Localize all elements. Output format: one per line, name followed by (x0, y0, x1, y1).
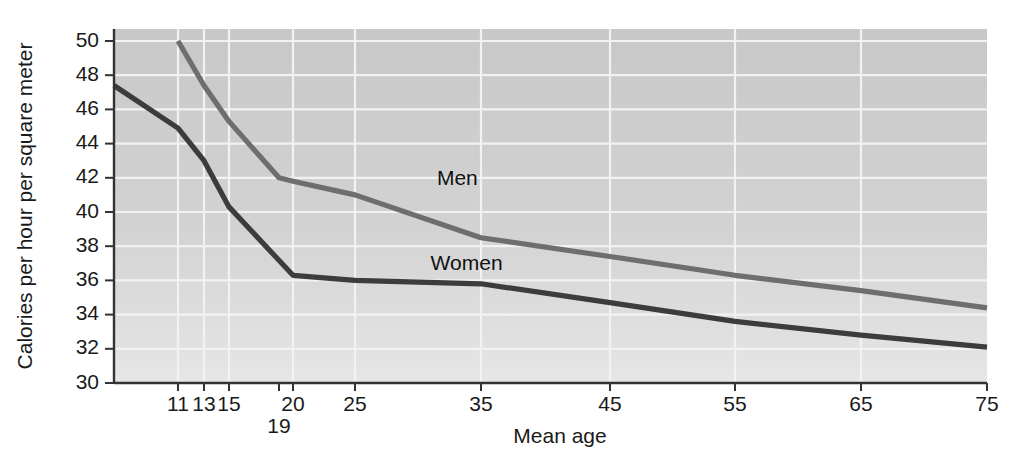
x-tick-label: 55 (723, 392, 746, 415)
series-annotation-women: Women (431, 251, 503, 274)
y-tick-label: 46 (76, 96, 99, 119)
chart-svg: 1113151920253545556575 30323436384042444… (0, 0, 1036, 465)
plot-area-background (114, 29, 987, 383)
x-tick-label: 20 (281, 392, 304, 415)
x-tick-label: 13 (192, 392, 215, 415)
y-tick-label: 42 (76, 164, 99, 187)
y-tick-label: 38 (76, 233, 99, 256)
y-tick-label: 40 (76, 199, 99, 222)
x-tick-label: 19 (267, 414, 290, 437)
x-tick-label: 15 (217, 392, 240, 415)
series-annotation-men: Men (437, 166, 478, 189)
y-tick-label: 30 (76, 370, 99, 393)
y-tick-label: 36 (76, 267, 99, 290)
y-tick-label: 48 (76, 62, 99, 85)
x-tick-label: 75 (975, 392, 998, 415)
y-axis-ticks (105, 41, 114, 383)
y-tick-label: 32 (76, 335, 99, 358)
x-tick-label: 25 (343, 392, 366, 415)
x-tick-label: 65 (849, 392, 872, 415)
y-tick-label: 50 (76, 28, 99, 51)
chart-figure: 1113151920253545556575 30323436384042444… (0, 0, 1036, 465)
y-tick-label: 44 (76, 130, 100, 153)
y-tick-label: 34 (76, 301, 100, 324)
y-axis-title: Calories per hour per square meter (13, 43, 36, 370)
y-axis-tick-labels: 3032343638404244464850 (76, 28, 100, 393)
x-axis-title: Mean age (513, 424, 606, 447)
x-tick-label: 11 (167, 392, 189, 415)
x-tick-label: 45 (598, 392, 621, 415)
x-axis-ticks (178, 383, 987, 391)
x-tick-label: 35 (469, 392, 492, 415)
